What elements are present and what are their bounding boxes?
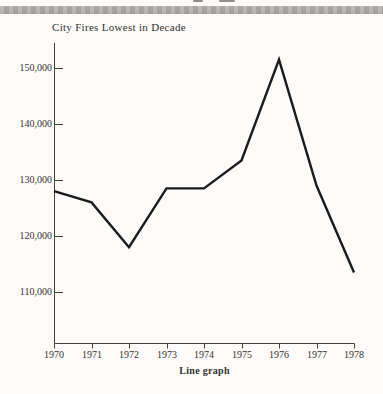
y-tick-label: 130,000 <box>13 174 52 186</box>
scanned-textbook-page: { "colors": { "background": "#fcfbf9", "… <box>0 0 383 394</box>
x-tick-label: 1971 <box>75 349 109 361</box>
x-tick-label: 1972 <box>112 349 146 361</box>
x-tick-label: 1975 <box>225 349 259 361</box>
y-tick-label: 140,000 <box>13 118 52 130</box>
x-tick-label: 1977 <box>300 349 334 361</box>
x-tick-label: 1974 <box>187 349 221 361</box>
y-tick-label: 150,000 <box>13 62 52 74</box>
x-tick-label: 1973 <box>150 349 184 361</box>
data-line <box>54 60 354 273</box>
y-tick-label: 110,000 <box>13 286 52 298</box>
x-tick-label: 1976 <box>262 349 296 361</box>
axis-lines <box>55 43 355 344</box>
x-tick-label: 1978 <box>337 349 371 361</box>
x-tick-label: 1970 <box>37 349 71 361</box>
chart-caption: Line graph <box>54 365 355 376</box>
y-tick-label: 120,000 <box>13 230 52 242</box>
plot-area <box>0 0 383 394</box>
